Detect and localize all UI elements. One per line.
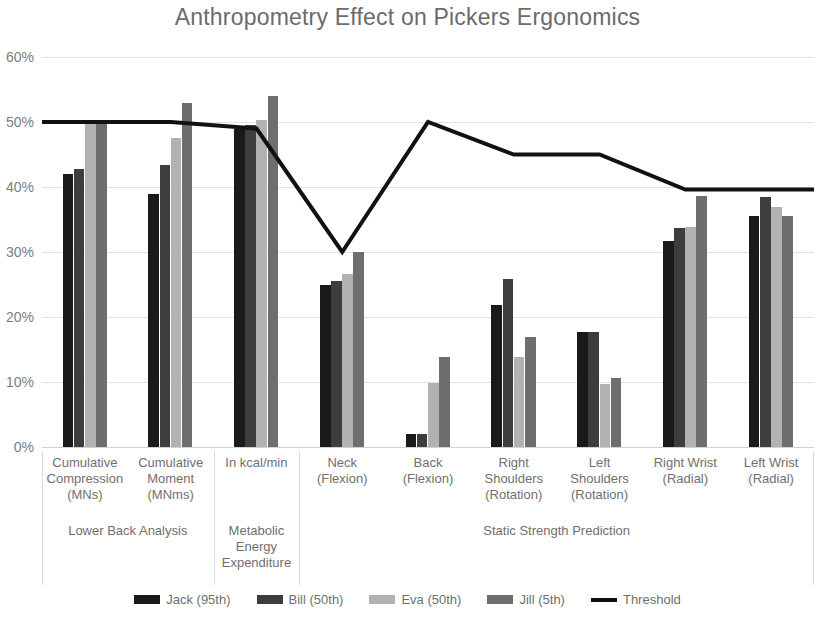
bar	[353, 252, 364, 447]
bar	[439, 357, 450, 447]
legend-item[interactable]: Jack (95th)	[134, 592, 230, 607]
x-axis-tick-line: (Rotation)	[471, 487, 557, 503]
bar	[514, 357, 525, 447]
category-group-label: Lower Back Analysis	[42, 523, 214, 539]
bar	[782, 216, 793, 447]
plot-area	[42, 57, 814, 447]
x-axis-tick-label: Right Wrist(Radial)	[642, 455, 728, 487]
legend-label: Jill (5th)	[519, 592, 565, 607]
bar	[503, 279, 514, 447]
bar	[685, 227, 696, 447]
category-group-line: Energy	[214, 539, 300, 555]
bar-group	[728, 57, 814, 447]
legend-swatch-icon	[369, 595, 395, 604]
bar	[663, 241, 674, 447]
bar-group	[471, 57, 557, 447]
category-group-line: Expenditure	[214, 555, 300, 571]
x-axis-tick-line: Compression	[42, 471, 128, 487]
bar	[760, 197, 771, 447]
category-group-label: Static Strength Prediction	[299, 523, 814, 539]
x-axis-tick-line: Neck	[299, 455, 385, 471]
legend-item[interactable]: Eva (50th)	[369, 592, 461, 607]
y-axis-tick-label: 50%	[6, 114, 34, 130]
x-axis-tick-line: Right Wrist	[642, 455, 728, 471]
x-axis-tick-line: Left Wrist	[728, 455, 814, 471]
legend-item[interactable]: Jill (5th)	[487, 592, 565, 607]
x-axis-tick-line: (MNms)	[128, 487, 214, 503]
legend-label: Threshold	[623, 592, 681, 607]
y-axis-tick-label: 60%	[6, 49, 34, 65]
chart-legend: Jack (95th)Bill (50th)Eva (50th)Jill (5t…	[0, 592, 815, 607]
legend-swatch-icon	[487, 595, 513, 604]
x-axis-tick-line: (Flexion)	[299, 471, 385, 487]
bar-group	[42, 57, 128, 447]
x-axis-tick-line: Left	[557, 455, 643, 471]
x-axis-tick-label: Back(Flexion)	[385, 455, 471, 487]
x-axis-tick-line: (MNs)	[42, 487, 128, 503]
x-axis-tick-line: (Rotation)	[557, 487, 643, 503]
category-separator	[299, 451, 300, 585]
legend-swatch-icon	[257, 595, 283, 604]
x-axis-tick-label: In kcal/min	[214, 455, 300, 471]
x-axis-tick-line: Moment	[128, 471, 214, 487]
bar	[428, 383, 439, 447]
bar	[63, 174, 74, 447]
x-axis-tick-label: LeftShoulders(Rotation)	[557, 455, 643, 503]
y-axis-tick-label: 20%	[6, 309, 34, 325]
category-separator	[813, 451, 814, 585]
x-axis-tick-line: Cumulative	[42, 455, 128, 471]
bar	[525, 337, 536, 448]
bar	[85, 121, 96, 447]
y-axis-tick-label: 0%	[14, 439, 34, 455]
category-group-label: MetabolicEnergyExpenditure	[214, 523, 300, 571]
legend-item[interactable]: Bill (50th)	[257, 592, 344, 607]
bar	[182, 103, 193, 448]
bar	[256, 120, 267, 447]
bar-group	[214, 57, 300, 447]
category-group-line: Lower Back Analysis	[42, 523, 214, 539]
x-axis-tick-line: Right	[471, 455, 557, 471]
x-axis-tick-line: Cumulative	[128, 455, 214, 471]
bar-group	[385, 57, 471, 447]
x-axis-tick-label: CumulativeCompression(MNs)	[42, 455, 128, 503]
x-axis-tick-line: (Flexion)	[385, 471, 471, 487]
legend-label: Eva (50th)	[401, 592, 461, 607]
category-separator	[42, 451, 43, 585]
bar	[577, 332, 588, 447]
category-group-line: Metabolic	[214, 523, 300, 539]
bar	[148, 194, 159, 448]
y-axis-labels: 0%10%20%30%40%50%60%	[0, 0, 42, 504]
bar	[696, 196, 707, 447]
legend-swatch-icon	[134, 595, 160, 604]
y-axis-tick-label: 40%	[6, 179, 34, 195]
bar	[600, 384, 611, 447]
x-axis-labels: CumulativeCompression(MNs)CumulativeMome…	[42, 451, 814, 586]
bar-group	[642, 57, 728, 447]
bar	[406, 434, 417, 447]
x-axis-tick-line: Back	[385, 455, 471, 471]
category-group-line: Static Strength Prediction	[299, 523, 814, 539]
bar-group	[557, 57, 643, 447]
bar	[342, 274, 353, 447]
bar	[74, 169, 85, 447]
gridline-0	[42, 447, 814, 448]
x-axis-tick-line: Shoulders	[471, 471, 557, 487]
x-axis-tick-label: Left Wrist(Radial)	[728, 455, 814, 487]
legend-item-threshold[interactable]: Threshold	[591, 592, 681, 607]
legend-label: Jack (95th)	[166, 592, 230, 607]
y-axis-tick-label: 10%	[6, 374, 34, 390]
x-axis-tick-label: RightShoulders(Rotation)	[471, 455, 557, 503]
bar	[268, 96, 279, 447]
bar	[96, 121, 107, 447]
x-axis-tick-line: (Radial)	[642, 471, 728, 487]
bar-group	[299, 57, 385, 447]
bar	[171, 138, 182, 447]
bar	[749, 216, 760, 447]
bar	[611, 378, 622, 447]
bar	[245, 125, 256, 447]
bar	[588, 332, 599, 447]
x-axis-tick-label: CumulativeMoment(MNms)	[128, 455, 214, 503]
page-title: Anthropometry Effect on Pickers Ergonomi…	[0, 4, 815, 31]
x-axis-tick-line: In kcal/min	[214, 455, 300, 471]
y-axis-tick-label: 30%	[6, 244, 34, 260]
